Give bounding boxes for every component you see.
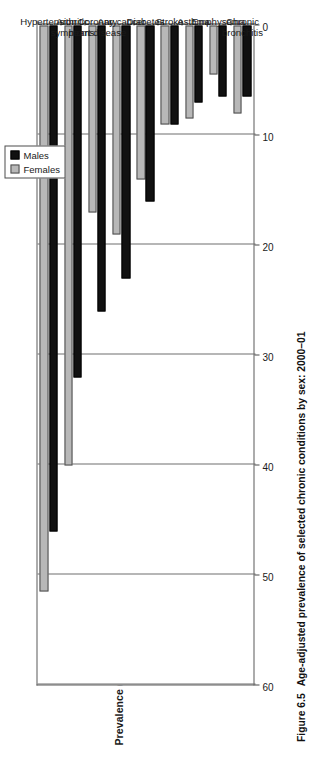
bar-males xyxy=(145,25,153,201)
axis-tick xyxy=(254,244,259,245)
category-label-line: bronchitis xyxy=(204,27,280,38)
bar-males xyxy=(170,25,178,124)
figure-number: Figure 6.5 xyxy=(296,693,307,742)
bar-females xyxy=(160,25,168,124)
gridline xyxy=(37,573,255,574)
rotated-chart-canvas: Prevalence (%) 0102030405060 Hypertensio… xyxy=(0,0,310,759)
category-label: Chronicbronchitis xyxy=(204,16,280,37)
axis-tick-label: 20 xyxy=(262,241,273,252)
axis-tick-label: 50 xyxy=(262,571,273,582)
bar-males xyxy=(97,25,105,311)
axis-tick-label: 60 xyxy=(262,681,273,692)
bar-females xyxy=(39,25,47,592)
axis-tick xyxy=(254,574,259,575)
figure-caption-text: Age-adjusted prevalence of selected chro… xyxy=(296,332,307,687)
legend-label: Females xyxy=(23,163,59,174)
chart-legend: MalesFemales xyxy=(4,145,65,178)
legend-entry: Females xyxy=(10,163,59,174)
axis-tick xyxy=(254,134,259,135)
plot-wrapper: Prevalence (%) 0102030405060 Hypertensio… xyxy=(0,0,310,759)
legend-label: Males xyxy=(23,149,48,160)
bar-males xyxy=(73,25,81,377)
bar-females xyxy=(64,25,72,465)
bar-females xyxy=(88,25,96,212)
figure-caption: Figure 6.5Age-adjusted prevalence of sel… xyxy=(296,332,307,742)
legend-swatch-males-icon xyxy=(10,150,19,159)
figure-container: Prevalence (%) 0102030405060 Hypertensio… xyxy=(0,0,310,759)
axis-tick-label: 10 xyxy=(262,131,273,142)
axis-tick xyxy=(254,684,259,685)
bar-females xyxy=(185,25,193,119)
axis-tick xyxy=(254,464,259,465)
category-label-line: heart disease xyxy=(59,27,135,38)
category-label-line: Chronic xyxy=(204,16,280,27)
axis-tick-label: 40 xyxy=(262,461,273,472)
gridline xyxy=(37,683,255,684)
bar-females xyxy=(233,25,241,113)
bar-males xyxy=(121,25,129,278)
legend-swatch-females-icon xyxy=(10,164,19,173)
legend-entry: Males xyxy=(10,149,59,160)
bar-females xyxy=(136,25,144,179)
bar-females xyxy=(112,25,120,234)
bar-males xyxy=(194,25,202,102)
bar-males xyxy=(49,25,57,531)
axis-tick-label: 30 xyxy=(262,351,273,362)
axis-tick xyxy=(254,354,259,355)
